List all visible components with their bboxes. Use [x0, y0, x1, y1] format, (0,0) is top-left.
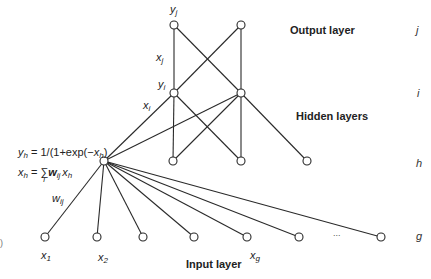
edges-group	[45, 25, 381, 237]
edge-hidden-h-1-to-input-6	[104, 161, 299, 237]
hidden-i-node-2	[237, 89, 245, 97]
label-xg: xg	[250, 250, 260, 263]
label-x2: x2	[98, 252, 108, 265]
label-yi: yi	[158, 79, 165, 92]
input-node-2	[93, 233, 101, 241]
output-node-2	[237, 21, 245, 29]
sum-formula: xh = ∑i wijxh	[18, 167, 72, 184]
hidden-layers-title: Hidden layers	[296, 111, 368, 122]
layer-letter-j: j	[416, 25, 418, 36]
input-node-3	[139, 233, 147, 241]
edge-hidden-h-1-to-input-5	[104, 161, 247, 237]
label-xi: xi	[143, 100, 150, 113]
input-node-5	[243, 233, 251, 241]
output-node-1	[170, 21, 178, 29]
input-node-1	[41, 233, 49, 241]
hidden-i-node-1	[170, 89, 178, 97]
edge-hidden-i-2-to-hidden-h-1	[104, 93, 241, 161]
label-x1: x1	[41, 250, 51, 263]
panel-mark: )	[0, 239, 3, 248]
output-layer-title: Output layer	[290, 25, 355, 36]
edge-hidden-h-1-to-input-4	[104, 161, 194, 237]
label-wij: wij	[52, 193, 64, 206]
edge-hidden-h-1-to-input-7	[104, 161, 381, 237]
layer-letter-h: h	[416, 158, 422, 169]
layer-letter-i: i	[417, 88, 419, 99]
edge-hidden-i-2-to-hidden-h-4	[241, 93, 307, 161]
hidden-h-node-4	[303, 157, 311, 165]
edge-hidden-i-1-to-hidden-h-1	[104, 93, 174, 161]
activation-formula: yh = 1/(1+exp(−xh)	[18, 147, 107, 160]
input-node-6	[295, 233, 303, 241]
hidden-h-node-2	[169, 157, 177, 165]
input-node-7	[377, 233, 385, 241]
input-layer-title: Input layer	[186, 259, 242, 270]
hidden-h-node-3	[237, 157, 245, 165]
label-xj: xj	[156, 52, 163, 65]
edge-hidden-h-1-to-input-3	[104, 161, 143, 237]
edge-hidden-h-1-to-input-2	[97, 161, 104, 237]
input-node-4	[190, 233, 198, 241]
input-ellipsis: ...	[333, 229, 341, 238]
neural-network-diagram	[0, 0, 431, 279]
layer-letter-g: g	[416, 231, 422, 242]
label-yj: yj	[170, 4, 177, 17]
